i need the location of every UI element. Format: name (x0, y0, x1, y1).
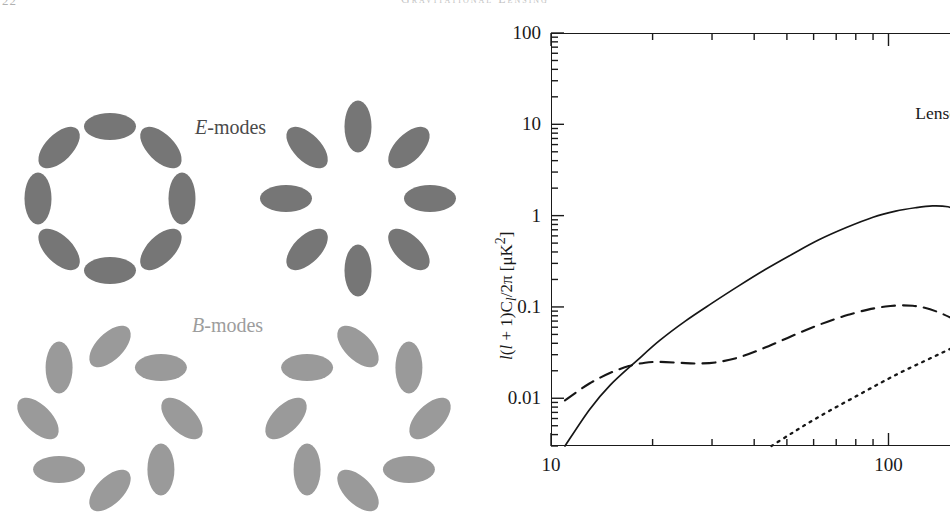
polarization-pattern-illustration: E-modes B-modes (0, 18, 470, 526)
e-modes-label: E-modes (195, 116, 266, 139)
plot-border (551, 33, 950, 446)
polarization-ellipse (279, 119, 335, 175)
polarization-ellipse (33, 455, 85, 482)
polarization-ellipse (31, 221, 87, 277)
y-tick-label: 1 (470, 205, 541, 227)
polarization-ellipse (404, 185, 456, 212)
polarization-ellipse (135, 354, 187, 381)
b-modes-label-prefix: B (192, 314, 204, 336)
polarization-ellipse (330, 318, 386, 374)
polarization-ellipse (279, 221, 335, 277)
x-tick-label: 100 (874, 454, 903, 476)
polarization-ellipse (381, 221, 437, 277)
polarization-ellipse (345, 244, 372, 296)
polarization-ellipse (395, 341, 422, 393)
pattern-b-plus45 (10, 318, 210, 518)
polarization-ellipse (381, 119, 437, 175)
polarization-ellipse (147, 443, 174, 495)
polarization-ellipse (402, 390, 458, 446)
e-modes-label-prefix: E (195, 116, 207, 138)
polarization-ellipse (154, 390, 210, 446)
annotation-lensed-e-modes: Lensed E-modes (915, 103, 950, 124)
pattern-e-tangential (10, 98, 210, 298)
polarization-ellipse (84, 113, 136, 140)
b-modes-label: B-modes (192, 314, 263, 337)
y-tick-label: 0.01 (470, 387, 541, 409)
polarization-ellipse (25, 172, 52, 224)
plot-frame (551, 33, 950, 446)
polarization-ellipse (281, 354, 333, 381)
page-folio: 22 (2, 0, 17, 9)
x-tick-label: 10 (542, 454, 561, 476)
polarization-ellipse (46, 341, 73, 393)
polarization-ellipse (82, 318, 138, 374)
pattern-b-minus45 (258, 318, 458, 518)
polarization-ellipse (82, 462, 138, 518)
polarization-ellipse (345, 100, 372, 152)
e-modes-label-suffix: -modes (207, 116, 266, 138)
polarization-ellipse (294, 443, 321, 495)
y-tick-label: 0.1 (470, 296, 541, 318)
polarization-ellipse (84, 257, 136, 284)
power-spectrum-plot: l(l + 1)Cl/2π [μK2] 1001010.10.01 101001… (470, 0, 950, 528)
polarization-ellipse (31, 119, 87, 175)
b-modes-label-suffix: -modes (204, 314, 263, 336)
y-tick-label: 10 (470, 113, 541, 135)
polarization-ellipse (383, 455, 435, 482)
y-tick-label: 100 (470, 22, 541, 44)
polarization-ellipse (260, 185, 312, 212)
polarization-ellipse (133, 119, 189, 175)
polarization-ellipse (169, 172, 196, 224)
pattern-e-radial (258, 98, 458, 298)
polarization-ellipse (330, 462, 386, 518)
polarization-ellipse (258, 390, 314, 446)
polarization-ellipse (10, 390, 66, 446)
polarization-ellipse (133, 221, 189, 277)
